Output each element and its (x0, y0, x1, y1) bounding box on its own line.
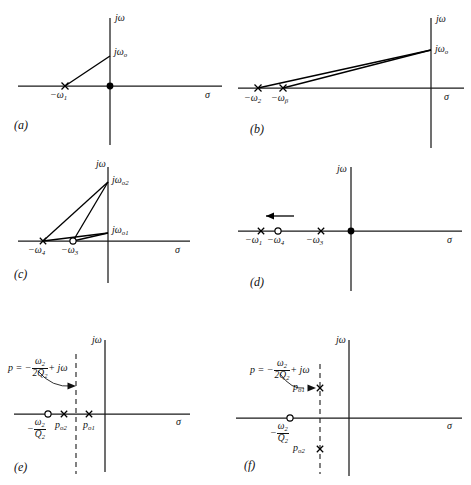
point-label-j-omega-o1: jωo1 (112, 225, 129, 237)
marker-zero-omega2-over-Q2 (45, 411, 51, 417)
zero-label-omega2-over-Q2: −ω2Q2 (270, 422, 289, 444)
pole-label-omega-beta: −ωβ (271, 93, 288, 105)
panel-f: jω σ p = −ω22Q2+ jω po1 −ω2Q2 po2 (f) (236, 325, 471, 485)
panel-e-plot (0, 325, 235, 485)
real-axis-label: σ (444, 92, 449, 102)
panel-letter-c: (c) (14, 267, 27, 282)
real-axis-label: σ (176, 417, 181, 427)
pole-label-omega2: −ω2 (244, 93, 261, 105)
marker-zero-omega2-over-Q2 (287, 415, 293, 421)
ray-pole-omega-beta-to-point (283, 50, 431, 88)
panel-letter-d: (d) (250, 275, 264, 290)
pole-label-omega3: −ω3 (306, 235, 323, 247)
panel-letter-b: (b) (250, 122, 264, 137)
imaginary-axis-label: jω (436, 14, 446, 24)
pole-label-po1: po1 (83, 420, 95, 432)
pole-label-po1: po1 (293, 382, 305, 394)
pole-zero-figure-grid: jω σ jωo −ω1 (a) jω (0, 0, 471, 485)
panel-c: jω σ jωo2 jωo1 −ω4 −ω3 (c) (0, 163, 235, 325)
point-label-j-omega-o2: jωo2 (112, 175, 129, 187)
panel-a-plot (0, 0, 235, 162)
zero-label-omega2-over-Q2: −ω2Q2 (27, 418, 46, 440)
imaginary-axis-label: jω (96, 159, 106, 169)
imaginary-axis-label: jω (337, 164, 347, 174)
panel-a: jω σ jωo −ω1 (a) (0, 0, 235, 162)
equation-leader-arrowhead (308, 384, 317, 391)
pole-label-omega4: −ω4 (28, 245, 45, 257)
panel-letter-f: (f) (244, 458, 255, 473)
zero-label-omega4: −ω4 (267, 235, 284, 247)
pole-label-po2: po2 (55, 420, 67, 432)
imaginary-axis-label: jω (336, 335, 346, 345)
point-label-j-omega-o: jωo (114, 47, 127, 59)
ray-zero3-to-point-o2 (73, 182, 108, 241)
real-axis-label: σ (447, 421, 452, 431)
pole-label-po2: po2 (293, 443, 305, 455)
equation-leader-arrowhead (68, 382, 77, 389)
panel-e: jω σ p = −ω22Q2+ jω −ω2Q2 po2 po1 (e) (0, 325, 235, 485)
panel-letter-a: (a) (14, 118, 28, 133)
pole-equation: p = −ω22Q2+ jω (8, 357, 67, 379)
imaginary-axis-label: jω (115, 13, 125, 23)
pole-label-omega1: −ω1 (50, 90, 67, 102)
marker-origin-point (107, 83, 114, 90)
motion-arrow-icon (266, 213, 294, 220)
panel-f-plot (236, 325, 471, 485)
panel-d: jω σ −ω1 −ω4 −ω3 (d) (236, 163, 471, 325)
real-axis-label: σ (447, 235, 452, 245)
imaginary-axis-label: jω (92, 335, 102, 345)
marker-origin-point (348, 228, 355, 235)
real-axis-label: σ (205, 90, 210, 100)
zero-label-omega3: −ω3 (61, 245, 78, 257)
pole-equation: p = −ω22Q2+ jω (250, 359, 309, 381)
ray-pole-to-point (65, 56, 110, 86)
panel-b: jω σ jωo −ω2 −ωβ (b) (236, 0, 471, 162)
ray-pole4-to-point-o2 (43, 182, 108, 241)
panel-letter-e: (e) (14, 460, 27, 475)
ray-pole-omega2-to-point (258, 50, 431, 88)
pole-label-omega1: −ω1 (245, 235, 262, 247)
point-label-j-omega-o: jωo (435, 44, 448, 56)
panel-b-plot (236, 0, 471, 162)
real-axis-label: σ (175, 245, 180, 255)
